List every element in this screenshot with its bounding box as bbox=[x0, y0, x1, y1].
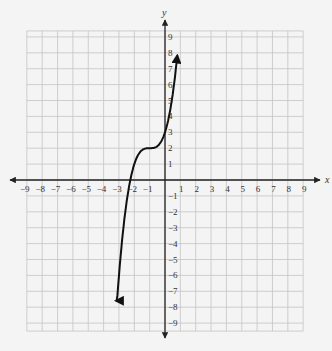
x-tick-label: 3 bbox=[210, 184, 215, 194]
y-tick-label: −6 bbox=[168, 270, 178, 280]
y-tick-label: 8 bbox=[168, 48, 173, 58]
x-tick-label: −9 bbox=[20, 184, 30, 194]
x-tick-label: 9 bbox=[302, 184, 307, 194]
y-tick-label: −8 bbox=[168, 302, 178, 312]
y-tick-label: −2 bbox=[168, 207, 178, 217]
x-tick-label: −4 bbox=[97, 184, 107, 194]
y-tick-label: 1 bbox=[168, 159, 173, 169]
x-tick-label: 1 bbox=[179, 184, 184, 194]
y-tick-label: −4 bbox=[168, 239, 178, 249]
x-tick-label: 4 bbox=[225, 184, 230, 194]
y-tick-label: 6 bbox=[168, 80, 173, 90]
y-tick-label: 2 bbox=[168, 143, 173, 153]
y-tick-label: −1 bbox=[168, 191, 178, 201]
x-tick-label: 2 bbox=[194, 184, 199, 194]
y-tick-label: −7 bbox=[168, 286, 178, 296]
x-tick-label: −8 bbox=[35, 184, 45, 194]
x-tick-label: 6 bbox=[256, 184, 261, 194]
x-tick-label: 5 bbox=[241, 184, 246, 194]
y-tick-label: 7 bbox=[168, 64, 173, 74]
x-tick-label: −5 bbox=[81, 184, 91, 194]
y-tick-label: 3 bbox=[168, 127, 173, 137]
coordinate-plane: −9−8−7−6−5−4−3−2−1123456789−9−8−7−6−5−4−… bbox=[0, 0, 332, 351]
axes bbox=[10, 20, 320, 338]
x-tick-label: 7 bbox=[271, 184, 276, 194]
x-tick-label: −1 bbox=[143, 184, 153, 194]
x-tick-label: −7 bbox=[51, 184, 61, 194]
y-tick-label: −9 bbox=[168, 318, 178, 328]
y-tick-label: −5 bbox=[168, 255, 178, 265]
y-tick-label: −3 bbox=[168, 223, 178, 233]
x-tick-label: −6 bbox=[66, 184, 76, 194]
x-tick-label: −3 bbox=[112, 184, 122, 194]
y-axis-label: y bbox=[161, 7, 167, 18]
x-tick-label: 8 bbox=[287, 184, 292, 194]
x-axis-label: x bbox=[324, 174, 330, 185]
y-tick-label: 9 bbox=[168, 32, 173, 42]
